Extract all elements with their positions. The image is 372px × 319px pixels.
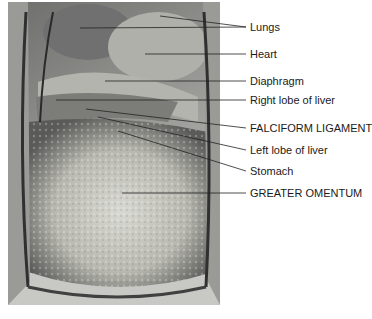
label-lungs: Lungs (250, 21, 280, 33)
label-greater-omentum: GREATER OMENTUM (250, 187, 362, 199)
label-falciform-ligament: FALCIFORM LIGAMENT (250, 122, 372, 134)
label-heart: Heart (250, 48, 277, 60)
label-stomach: Stomach (250, 165, 293, 177)
label-right-lobe-of-liver: Right lobe of liver (250, 94, 335, 106)
label-diaphragm: Diaphragm (250, 75, 304, 87)
label-left-lobe-of-liver: Left lobe of liver (250, 144, 328, 156)
